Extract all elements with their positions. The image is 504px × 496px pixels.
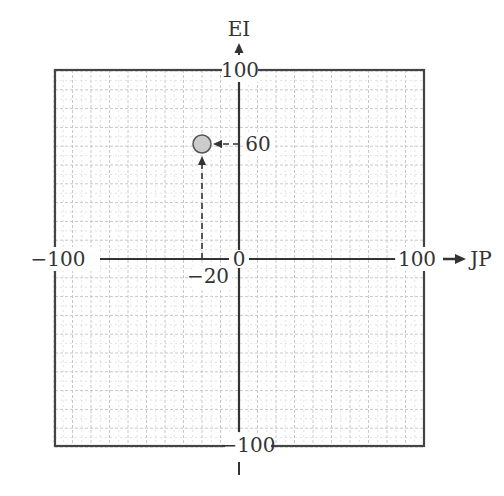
x-axis-label: JP [468,247,491,271]
x-axis-arrow-icon [455,254,466,264]
data-point [193,135,211,153]
point-y-value-label: 60 [245,132,270,156]
x-tick-min: −100 [31,247,86,271]
y-tick-min: −100 [221,433,276,457]
x-tick-max: 100 [398,247,436,271]
point-x-value-label: −20 [187,264,229,288]
guide-arrow-up-icon [198,156,206,165]
guide-arrow-left-icon [213,140,222,148]
y-tick-max: 100 [221,58,259,82]
ei-jp-diagram: EI 100 −100 −100 100 0 JP 60 −20 [0,0,504,496]
origin-label: 0 [233,247,246,271]
y-axis-label: EI [228,17,251,41]
